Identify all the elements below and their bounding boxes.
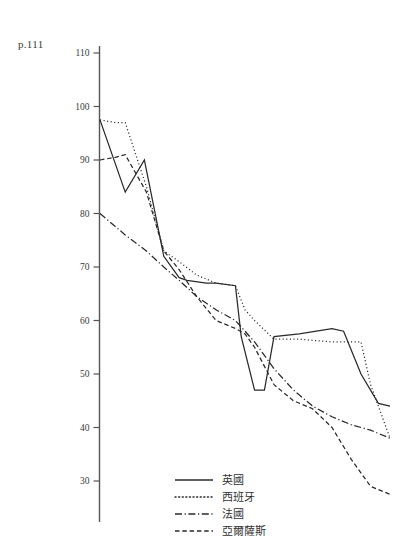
series-line-3	[100, 155, 390, 495]
y-axis-tick-label: 50	[80, 369, 90, 379]
y-axis: 11010090807060504030	[75, 46, 99, 522]
y-axis-tick-label: 100	[75, 102, 90, 112]
y-axis-tick-label: 60	[80, 316, 90, 326]
y-axis-tick-label: 110	[76, 48, 90, 58]
chart-series-group	[100, 120, 390, 494]
y-axis-tick-label: 40	[80, 423, 90, 433]
y-axis-tick-label: 90	[80, 155, 90, 165]
page-reference-label: p.111	[18, 38, 43, 50]
line-chart: 11010090807060504030 英國西班牙法國亞爾薩斯	[0, 0, 403, 542]
y-axis-tick-label: 80	[80, 209, 90, 219]
y-axis-tick-label: 70	[80, 262, 90, 272]
chart-legend: 英國西班牙法國亞爾薩斯	[175, 473, 266, 538]
y-axis-tick-label: 30	[80, 476, 90, 486]
y-axis-ticks: 11010090807060504030	[75, 48, 99, 486]
legend-label-3: 亞爾薩斯	[222, 525, 266, 538]
legend-label-0: 英國	[222, 473, 244, 487]
legend-label-1: 西班牙	[222, 491, 255, 504]
chart-figure: p.111 11010090807060504030 英國西班牙法國亞爾薩斯	[0, 0, 403, 542]
series-line-0	[100, 120, 390, 406]
series-line-1	[100, 120, 390, 438]
legend-label-2: 法國	[222, 507, 244, 521]
series-line-2	[100, 214, 390, 439]
